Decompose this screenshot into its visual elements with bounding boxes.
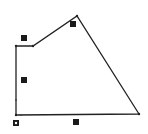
vertex-c xyxy=(76,15,78,17)
polygon-diagram xyxy=(0,0,148,134)
tick-bottom xyxy=(20,114,22,116)
origin-dot xyxy=(15,122,17,124)
edge-label-bottom xyxy=(73,119,79,125)
vertex-d xyxy=(138,113,140,115)
vertex-a xyxy=(15,45,17,47)
edge-label-top-left xyxy=(21,35,27,41)
vertex-b xyxy=(32,45,34,47)
tick-left xyxy=(15,99,17,101)
edge-label-left xyxy=(21,77,27,83)
polygon-shape xyxy=(16,16,139,115)
edge-label-top xyxy=(70,21,76,27)
vertex-e xyxy=(15,114,17,116)
